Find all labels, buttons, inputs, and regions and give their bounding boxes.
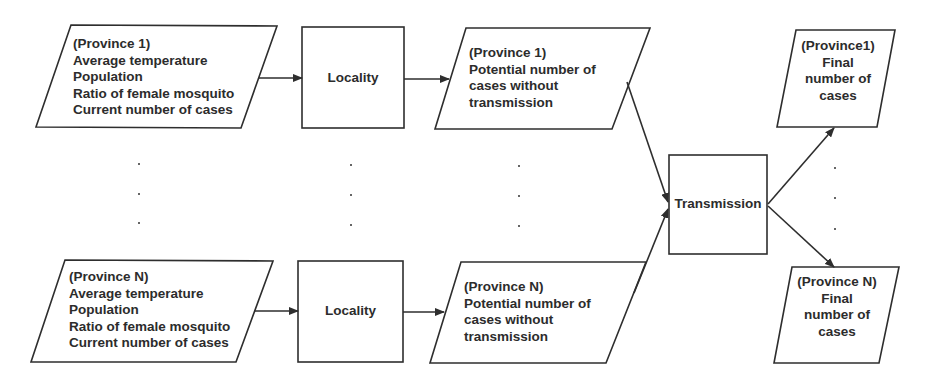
locality-1-label: Locality	[302, 70, 404, 87]
arrow-potential1-to-transmission	[627, 82, 668, 202]
arrow-transmission-to-finalN	[768, 206, 834, 267]
input-province-1-label: (Province 1) Average temperature Populat…	[73, 36, 234, 119]
locality-n-label: Locality	[298, 303, 403, 320]
transmission-label: Transmission	[669, 196, 767, 213]
final-province-1-label: (Province1) Final number of cases	[786, 38, 890, 104]
potential-province-n-label: (Province N) Potential number of cases w…	[464, 279, 591, 345]
input-province-n-label: (Province N) Average temperature Populat…	[69, 269, 230, 352]
arrow-transmission-to-final1	[768, 128, 834, 204]
arrow-potentialN-to-transmission	[634, 209, 668, 293]
final-province-n-label: (Province N) Final number of cases	[782, 274, 892, 340]
potential-province-1-label: (Province 1) Potential number of cases w…	[469, 45, 596, 111]
